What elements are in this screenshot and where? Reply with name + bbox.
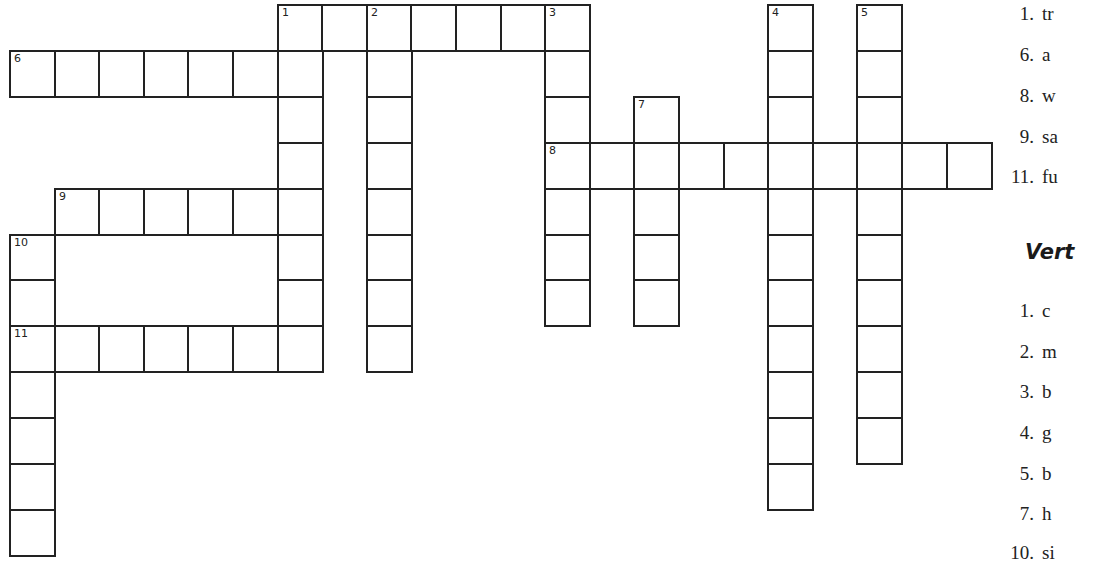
crossword-cell[interactable]: [9, 463, 56, 511]
clue-text: sa: [1042, 126, 1058, 147]
crossword-cell[interactable]: [9, 509, 56, 557]
crossword-cell[interactable]: [946, 142, 993, 190]
crossword-cell[interactable]: [9, 371, 56, 419]
clue-number: 10.: [1000, 542, 1034, 564]
crossword-cell[interactable]: [767, 417, 814, 465]
crossword-cell[interactable]: 5: [856, 4, 903, 52]
crossword-cell[interactable]: [321, 4, 368, 52]
crossword-cell[interactable]: [187, 188, 234, 236]
crossword-cell[interactable]: [856, 325, 903, 373]
crossword-cell[interactable]: [767, 234, 814, 282]
crossword-cell[interactable]: [856, 417, 903, 465]
crossword-cell[interactable]: [856, 371, 903, 419]
clue-down-5: 5.b: [1000, 463, 1052, 485]
cell-number: 2: [371, 7, 378, 19]
crossword-cell[interactable]: [143, 325, 190, 373]
crossword-cell[interactable]: [187, 325, 234, 373]
crossword-cell[interactable]: [544, 279, 591, 327]
crossword-cell[interactable]: [277, 142, 324, 190]
crossword-cell[interactable]: [901, 142, 948, 190]
crossword-cell[interactable]: [366, 96, 413, 144]
crossword-cell[interactable]: 4: [767, 4, 814, 52]
clue-text: si: [1042, 542, 1055, 563]
crossword-cell[interactable]: [544, 234, 591, 282]
crossword-cell[interactable]: [98, 50, 145, 98]
vertical-section-title: Vert: [1025, 240, 1074, 264]
crossword-cell[interactable]: [767, 371, 814, 419]
crossword-cell[interactable]: [856, 96, 903, 144]
clue-number: 4.: [1000, 422, 1034, 444]
crossword-cell[interactable]: [232, 50, 279, 98]
cell-number: 3: [549, 7, 556, 19]
crossword-cell[interactable]: 8: [544, 142, 591, 190]
crossword-cell[interactable]: [633, 188, 680, 236]
crossword-cell[interactable]: [589, 142, 636, 190]
crossword-cell[interactable]: [856, 142, 903, 190]
crossword-cell[interactable]: [856, 188, 903, 236]
clue-number: 11.: [1000, 166, 1034, 188]
crossword-cell[interactable]: [812, 142, 859, 190]
clue-down-10: 10.si: [1000, 542, 1055, 564]
crossword-cell[interactable]: 3: [544, 4, 591, 52]
crossword-cell[interactable]: [544, 188, 591, 236]
crossword-cell[interactable]: [187, 50, 234, 98]
crossword-cell[interactable]: [277, 50, 324, 98]
crossword-cell[interactable]: [54, 325, 101, 373]
crossword-cell[interactable]: [633, 279, 680, 327]
clue-text: w: [1042, 85, 1056, 106]
crossword-cell[interactable]: [767, 96, 814, 144]
crossword-cell[interactable]: [98, 188, 145, 236]
crossword-cell[interactable]: [143, 188, 190, 236]
crossword-cell[interactable]: [767, 463, 814, 511]
crossword-cell[interactable]: 2: [366, 4, 413, 52]
clue-text: h: [1042, 503, 1052, 524]
crossword-cell[interactable]: [277, 234, 324, 282]
cell-number: 11: [14, 328, 28, 340]
crossword-cell[interactable]: [277, 96, 324, 144]
crossword-cell[interactable]: [143, 50, 190, 98]
crossword-cell[interactable]: [767, 279, 814, 327]
crossword-cell[interactable]: 1: [277, 4, 324, 52]
crossword-cell[interactable]: [767, 325, 814, 373]
crossword-cell[interactable]: [9, 417, 56, 465]
crossword-cell[interactable]: [767, 142, 814, 190]
cell-number: 4: [772, 7, 779, 19]
crossword-cell[interactable]: [9, 279, 56, 327]
crossword-cell[interactable]: [366, 188, 413, 236]
cell-number: 1: [282, 7, 289, 19]
crossword-cell[interactable]: [455, 4, 502, 52]
crossword-cell[interactable]: [633, 142, 680, 190]
crossword-cell[interactable]: [277, 188, 324, 236]
crossword-cell[interactable]: [366, 325, 413, 373]
crossword-cell[interactable]: [277, 279, 324, 327]
crossword-cell[interactable]: [500, 4, 547, 52]
crossword-cell[interactable]: [767, 50, 814, 98]
crossword-cell[interactable]: 9: [54, 188, 101, 236]
crossword-cell[interactable]: [723, 142, 770, 190]
crossword-cell[interactable]: [366, 279, 413, 327]
crossword-cell[interactable]: [767, 188, 814, 236]
crossword-cell[interactable]: 6: [9, 50, 56, 98]
crossword-cell[interactable]: 10: [9, 234, 56, 282]
crossword-cell[interactable]: [98, 325, 145, 373]
clue-number: 3.: [1000, 381, 1034, 403]
crossword-cell[interactable]: [232, 188, 279, 236]
crossword-cell[interactable]: [366, 50, 413, 98]
crossword-cell[interactable]: [544, 50, 591, 98]
crossword-cell[interactable]: [856, 279, 903, 327]
crossword-cell[interactable]: [366, 234, 413, 282]
crossword-cell[interactable]: [856, 234, 903, 282]
crossword-cell[interactable]: 7: [633, 96, 680, 144]
crossword-cell[interactable]: [54, 50, 101, 98]
crossword-cell[interactable]: [544, 96, 591, 144]
clue-text: fu: [1042, 166, 1058, 187]
crossword-cell[interactable]: [277, 325, 324, 373]
crossword-cell[interactable]: [232, 325, 279, 373]
crossword-cell[interactable]: [410, 4, 457, 52]
clue-text: tr: [1042, 3, 1054, 24]
crossword-cell[interactable]: 11: [9, 325, 56, 373]
crossword-cell[interactable]: [633, 234, 680, 282]
crossword-cell[interactable]: [678, 142, 725, 190]
crossword-cell[interactable]: [856, 50, 903, 98]
crossword-cell[interactable]: [366, 142, 413, 190]
